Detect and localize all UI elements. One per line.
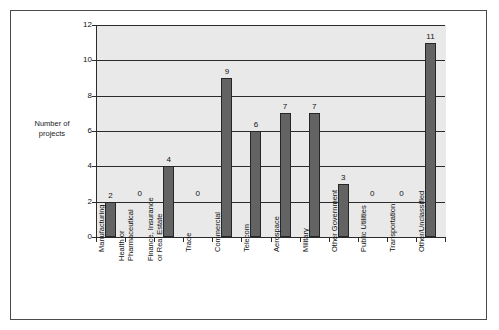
gridline	[96, 131, 445, 132]
x-axis-category-label: Health or Pharmaceutical	[117, 187, 135, 261]
y-tick-mark	[92, 96, 96, 97]
x-axis-category-label: Other/Unclassified	[417, 178, 426, 252]
bar-value-label: 6	[242, 120, 270, 129]
x-axis-category-label: Aerospace	[272, 178, 281, 252]
gridline	[96, 60, 445, 61]
bar	[280, 113, 291, 237]
y-tick-label: 2	[74, 197, 92, 206]
bar-value-label: 4	[155, 155, 183, 164]
bar	[250, 131, 261, 237]
y-tick-mark	[92, 131, 96, 132]
gridline	[96, 96, 445, 97]
bar	[338, 184, 349, 237]
bar	[163, 166, 174, 237]
x-tick-mark	[445, 237, 446, 242]
y-tick-mark	[92, 60, 96, 61]
x-axis-category-label: Other Government	[330, 178, 339, 252]
x-axis-category-label: Manufacturing	[97, 178, 106, 252]
x-axis-category-label: Telecom	[242, 178, 251, 252]
gridline	[96, 166, 445, 167]
x-axis-category-label: Military	[301, 178, 310, 252]
x-axis-category-label: Public Utilities	[359, 178, 368, 252]
y-tick-label: 12	[74, 20, 92, 29]
x-axis-category-label: Transportation	[388, 178, 397, 252]
bar	[105, 202, 116, 237]
y-tick-label: 0	[74, 232, 92, 241]
y-tick-mark	[92, 202, 96, 203]
bar-value-label: 7	[300, 102, 328, 111]
y-tick-label: 10	[74, 55, 92, 64]
bar-value-label: 7	[271, 102, 299, 111]
gridline	[96, 25, 445, 26]
bar	[425, 43, 436, 237]
bar	[221, 78, 232, 237]
x-axis-category-label: Finance, Insurance or Real Estate	[146, 187, 164, 261]
y-tick-label: 8	[74, 91, 92, 100]
x-axis-category-label: Commercial	[213, 178, 222, 252]
figure-frame: Number of projects 024681012 20409677300…	[10, 10, 487, 320]
y-tick-mark	[92, 25, 96, 26]
y-tick-label: 6	[74, 126, 92, 135]
y-tick-mark	[92, 166, 96, 167]
bar-value-label: 9	[213, 67, 241, 76]
bar	[309, 113, 320, 237]
y-tick-label: 4	[74, 161, 92, 170]
bar-value-label: 11	[416, 32, 444, 41]
bar-chart: Number of projects 024681012 20409677300…	[11, 11, 488, 321]
x-axis-category-label: Trade	[184, 178, 193, 252]
